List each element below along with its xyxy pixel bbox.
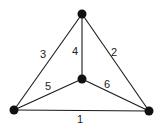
edge-label-4: 4 (72, 45, 78, 57)
node-bottom-left (10, 106, 19, 115)
edge-label-3: 3 (40, 48, 46, 60)
edge-label-5: 5 (45, 80, 51, 92)
node-center (78, 75, 87, 84)
edge-label-6: 6 (104, 78, 110, 90)
edge-3 (14, 14, 82, 110)
edge-label-1: 1 (77, 113, 83, 125)
edge-label-2: 2 (111, 46, 117, 58)
edges (14, 14, 149, 111)
graph-diagram: 1 2 3 4 5 6 (0, 0, 161, 127)
edge-2 (82, 14, 149, 111)
node-top (78, 10, 87, 19)
node-bottom-right (145, 107, 154, 116)
edge-6 (82, 79, 149, 111)
edge-1 (14, 110, 149, 111)
